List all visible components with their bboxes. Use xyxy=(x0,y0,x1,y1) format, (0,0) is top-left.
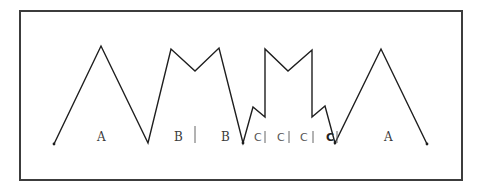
pattern-diagram: ABBCCCCA xyxy=(0,0,478,189)
segment-label-c: C xyxy=(277,131,285,144)
vertex-dot xyxy=(426,143,429,146)
segment-label-c: C xyxy=(326,131,334,144)
segment-label-a: A xyxy=(383,130,393,144)
vertex-dots xyxy=(53,142,429,146)
segment-label-a: A xyxy=(96,130,106,144)
segment-label-b: B xyxy=(221,130,230,144)
vertex-dot xyxy=(334,142,337,145)
wave-outline xyxy=(54,46,427,144)
diagram-frame xyxy=(20,11,462,180)
segment-dividers xyxy=(195,126,337,143)
segment-label-c: C xyxy=(254,131,262,144)
segment-label-c: C xyxy=(300,131,308,144)
vertex-dot xyxy=(53,143,56,146)
vertex-dot xyxy=(242,142,245,145)
segment-label-b: B xyxy=(174,130,183,144)
